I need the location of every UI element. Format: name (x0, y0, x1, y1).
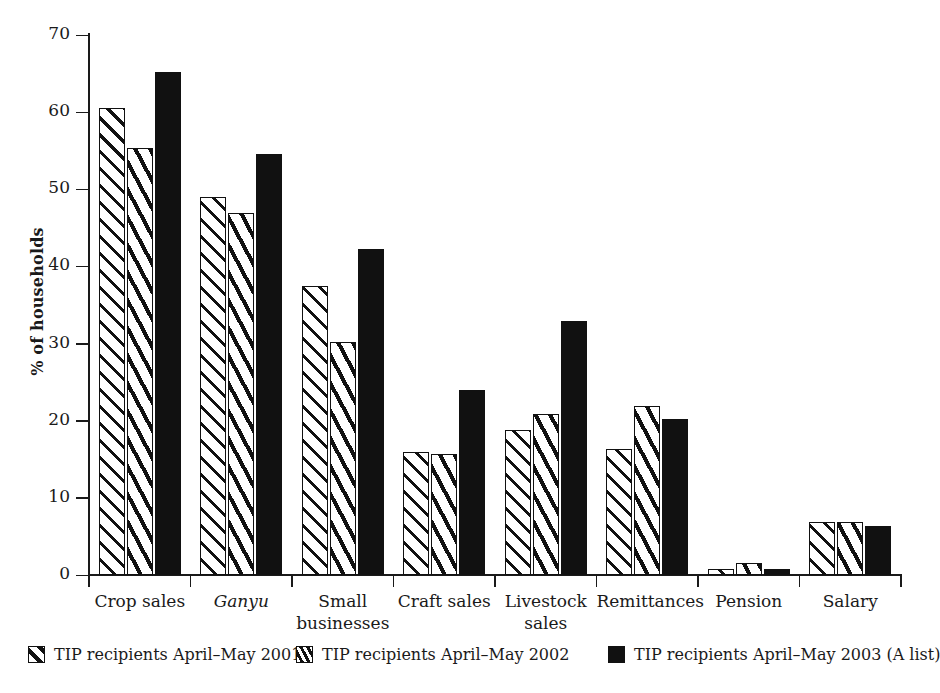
y-axis-tick (76, 189, 90, 191)
y-axis-tick (76, 112, 90, 114)
y-axis-tick (76, 420, 90, 422)
bar (708, 569, 734, 575)
y-axis-tick (76, 497, 90, 499)
x-axis-category-label: Remittances (597, 590, 699, 612)
x-axis-tick (697, 576, 699, 587)
legend-swatch-icon (28, 646, 45, 663)
bar (837, 522, 863, 575)
bar (228, 213, 254, 575)
y-axis-tick-label: 0 (14, 563, 70, 583)
y-axis-line (88, 33, 90, 577)
bar (764, 569, 790, 575)
legend-swatch-icon (296, 646, 313, 663)
legend-item: TIP recipients April–May 2002 (296, 645, 569, 664)
legend-swatch-icon (608, 646, 625, 663)
bar (634, 406, 660, 575)
y-axis-tick-label: 40 (14, 254, 70, 274)
legend-label: TIP recipients April–May 2001 (54, 645, 301, 664)
bar (200, 197, 226, 575)
x-axis-category-label: Salary (800, 590, 902, 612)
bar (736, 563, 762, 575)
x-axis-tick (494, 576, 496, 587)
y-axis-tick (76, 266, 90, 268)
legend-label: TIP recipients April–May 2002 (322, 645, 569, 664)
y-axis-tick-label: 30 (14, 332, 70, 352)
x-axis-tick (291, 576, 293, 587)
x-axis-category-label: Craft sales (394, 590, 496, 612)
x-axis-category-label: Livestocksales (495, 590, 597, 634)
bar (302, 286, 328, 575)
x-axis-category-label: Smallbusinesses (292, 590, 394, 634)
bar (99, 108, 125, 575)
y-axis-tick-label: 50 (14, 177, 70, 197)
y-axis-tick (76, 343, 90, 345)
bar (533, 414, 559, 575)
y-axis-tick-label: 10 (14, 486, 70, 506)
bar (155, 72, 181, 575)
bar (431, 454, 457, 575)
x-axis-tick (596, 576, 598, 587)
legend-item: TIP recipients April–May 2003 (A list) (608, 645, 940, 664)
bar (256, 154, 282, 575)
bar (127, 148, 153, 575)
bar (809, 522, 835, 575)
y-axis-tick (76, 35, 90, 37)
x-axis-tick (900, 576, 902, 587)
y-axis-tick-label: 60 (14, 100, 70, 120)
bar (561, 321, 587, 575)
y-axis-title: % of households (28, 202, 47, 402)
x-axis-tick (799, 576, 801, 587)
chart-legend: TIP recipients April–May 2001TIP recipie… (0, 645, 933, 675)
y-axis-tick-label: 70 (14, 23, 70, 43)
bar (459, 390, 485, 575)
bar (606, 449, 632, 575)
x-axis-category-label: Ganyu (191, 590, 293, 612)
x-axis-tick (190, 576, 192, 587)
y-axis-tick-label: 20 (14, 409, 70, 429)
bar (403, 452, 429, 575)
x-axis-tick (393, 576, 395, 587)
x-axis-category-label: Pension (698, 590, 800, 612)
legend-label: TIP recipients April–May 2003 (A list) (634, 645, 940, 664)
bar (662, 419, 688, 575)
legend-item: TIP recipients April–May 2001 (28, 645, 301, 664)
bar (505, 430, 531, 575)
bar (865, 526, 891, 575)
x-axis-tick (88, 576, 90, 587)
bar (330, 342, 356, 575)
bar (358, 249, 384, 575)
x-axis-category-label: Crop sales (89, 590, 191, 612)
